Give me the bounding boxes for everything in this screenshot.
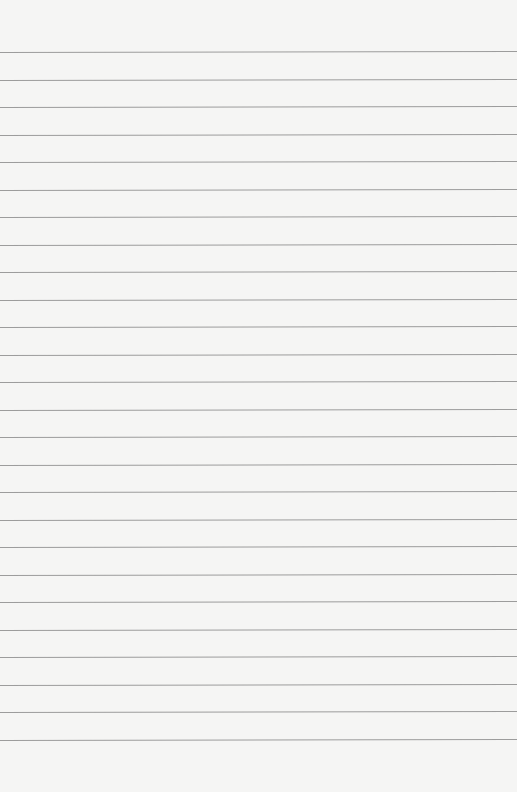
ruled-line: [0, 381, 517, 383]
ruled-line: [0, 656, 517, 658]
ruled-line: [0, 161, 517, 163]
ruled-line: [0, 51, 517, 53]
ruled-line: [0, 436, 517, 438]
ruled-line: [0, 271, 517, 273]
ruled-line: [0, 244, 517, 246]
ruled-line: [0, 491, 517, 493]
ruled-line: [0, 574, 517, 576]
ruled-line: [0, 354, 517, 356]
ruled-line: [0, 79, 517, 81]
lined-paper: [0, 0, 517, 792]
ruled-line: [0, 326, 517, 328]
ruled-line: [0, 134, 517, 136]
ruled-line: [0, 106, 517, 108]
ruled-line: [0, 464, 517, 466]
ruled-line: [0, 711, 517, 713]
ruled-line: [0, 409, 517, 411]
ruled-line: [0, 546, 517, 548]
ruled-line: [0, 216, 517, 218]
ruled-line: [0, 684, 517, 686]
ruled-line: [0, 299, 517, 301]
ruled-line: [0, 739, 517, 741]
ruled-line: [0, 601, 517, 603]
ruled-line: [0, 519, 517, 521]
ruled-line: [0, 629, 517, 631]
ruled-line: [0, 189, 517, 191]
